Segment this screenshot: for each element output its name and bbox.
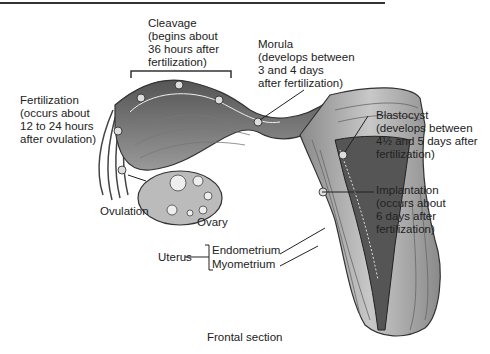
label-endometrium: Endometrium <box>212 244 280 257</box>
label-ovary: Ovary <box>197 216 228 229</box>
cleavage-bracket <box>131 71 231 78</box>
caption-frontal-section: Frontal section <box>207 331 282 344</box>
label-myometrium: Myometrium <box>212 258 275 271</box>
label-uterus: Uterus <box>158 251 192 264</box>
label-cleavage: Cleavage (begins about 36 hours after fe… <box>148 17 219 69</box>
uterine-tube-uterus-illustration <box>0 0 490 354</box>
label-morula: Morula (develops between 3 and 4 days af… <box>258 38 355 90</box>
label-implantation: Implantation (occurs about 6 days after … <box>376 184 446 236</box>
label-blastocyst: Blastocyst (develops between 4½ and 5 da… <box>376 109 478 161</box>
label-fertilization: Fertilization (occurs about 12 to 24 hou… <box>20 94 96 146</box>
label-ovulation: Ovulation <box>100 205 149 218</box>
